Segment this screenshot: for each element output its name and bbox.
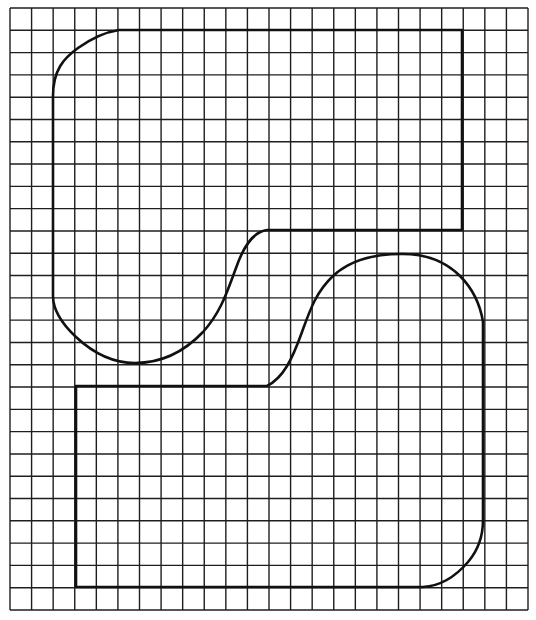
lower-shape-outline — [76, 254, 483, 587]
upper-shape-outline — [53, 30, 462, 363]
square-grid — [10, 8, 528, 610]
grid-drawing — [0, 0, 536, 620]
